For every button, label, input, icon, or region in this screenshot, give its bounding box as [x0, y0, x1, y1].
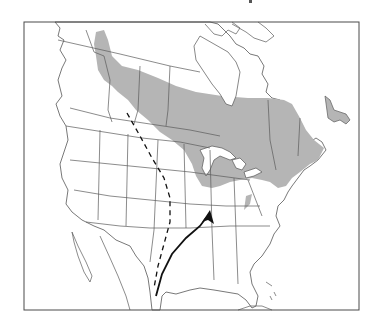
mexico-coast [100, 236, 130, 310]
newfoundland-range [325, 96, 350, 124]
baja-california [72, 232, 92, 282]
arctic-island [232, 22, 274, 42]
north-america-map [0, 0, 382, 321]
bahamas [266, 282, 276, 300]
